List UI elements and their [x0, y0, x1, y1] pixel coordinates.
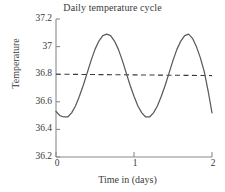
x-tick-marks — [56, 152, 212, 157]
mean-reference-line — [56, 74, 212, 75]
chart-plot — [0, 0, 225, 192]
y-tick-marks — [56, 19, 60, 157]
chart-container: Daily temperature cycle Temperature Time… — [0, 0, 225, 192]
temperature-curve — [56, 34, 212, 117]
